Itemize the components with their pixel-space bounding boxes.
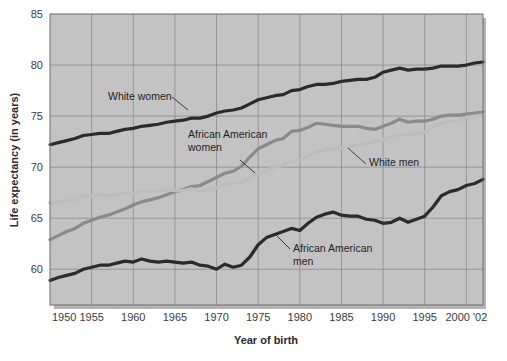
x-axis-title: Year of birth [234, 334, 298, 346]
annotation-label: African American [293, 242, 373, 254]
annotation-label: African American [188, 128, 268, 140]
x-tick-label: 1965 [163, 311, 187, 323]
life-expectancy-chart-figure: 606570758085 195019551960196519701975198… [0, 0, 507, 361]
y-axis-tick-labels: 606570758085 [31, 8, 43, 275]
y-tick-label: 75 [31, 110, 43, 122]
y-tick-label: 80 [31, 59, 43, 71]
annotation-label: White women [108, 90, 172, 102]
x-tick-label: 1980 [288, 311, 312, 323]
annotation-label: women [187, 141, 222, 153]
x-tick-label: 2000 '02 [445, 311, 487, 323]
x-tick-label: 1990 [371, 311, 395, 323]
x-tick-label: 1995 [412, 311, 436, 323]
y-tick-label: 65 [31, 212, 43, 224]
annotation-label: White men [369, 156, 419, 168]
y-axis-title: Life expectancy (in years) [8, 92, 20, 227]
x-tick-label: 1960 [121, 311, 145, 323]
x-tick-label: 1975 [246, 311, 270, 323]
annotation-label: men [293, 255, 314, 267]
x-tick-label: 1955 [79, 311, 103, 323]
x-axis-tick-labels: 1950195519601965197019751980198519901995… [52, 311, 487, 323]
x-tick-label: 1950 [52, 311, 76, 323]
x-tick-label: 1985 [329, 311, 353, 323]
chart-svg: 606570758085 195019551960196519701975198… [0, 0, 507, 361]
y-tick-label: 70 [31, 161, 43, 173]
y-tick-label: 85 [31, 8, 43, 20]
x-tick-label: 1970 [204, 311, 228, 323]
y-tick-label: 60 [31, 263, 43, 275]
